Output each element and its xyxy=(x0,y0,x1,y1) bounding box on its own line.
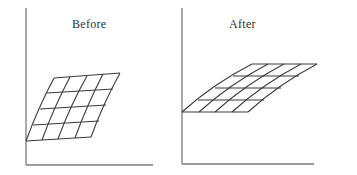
after-diagram xyxy=(175,0,357,175)
before-grid xyxy=(26,73,120,141)
after-grid xyxy=(182,64,317,112)
before-axes xyxy=(26,8,153,165)
after-panel: After xyxy=(175,0,357,175)
before-diagram xyxy=(0,0,175,175)
before-panel: Before xyxy=(0,0,175,175)
